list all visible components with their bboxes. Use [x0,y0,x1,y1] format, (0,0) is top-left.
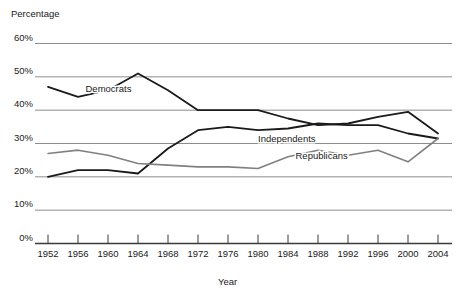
x-tick-label: 1956 [67,248,88,259]
x-tick-label: 2000 [397,248,418,259]
x-axis-title: Year [218,276,237,287]
series-label-republicans: Republicans [296,150,349,161]
y-tick-label: 60% [14,32,34,43]
y-tick-label: 30% [14,132,34,143]
x-tick-label: 1976 [217,248,238,259]
y-tick-label: 20% [14,165,34,176]
x-tick-marks-group [48,235,438,244]
line-chart: Percentage Year 0%10%20%30%40%50%60% 195… [0,0,468,295]
x-tick-label: 1980 [247,248,268,259]
x-tick-label: 1988 [307,248,328,259]
x-tick-labels-group: 1952195619601964196819721976198019841988… [37,248,448,259]
x-tick-label: 2004 [427,248,448,259]
series-label-independents: Independents [258,133,316,144]
gridlines-group [35,44,452,244]
y-tick-label: 10% [14,198,34,209]
x-tick-label: 1960 [97,248,118,259]
series-label-democrats: Democrats [86,83,132,94]
y-tick-labels-group: 0%10%20%30%40%50%60% [14,32,34,243]
series-labels-group: DemocratsDemocratsIndependentsIndependen… [86,83,349,161]
y-tick-label: 40% [14,98,34,109]
x-tick-label: 1952 [37,248,58,259]
chart-plot-area: 0%10%20%30%40%50%60% 1952195619601964196… [0,0,468,295]
x-tick-label: 1964 [127,248,148,259]
x-tick-label: 1968 [157,248,178,259]
x-tick-label: 1984 [277,248,298,259]
y-tick-label: 50% [14,65,34,76]
y-axis-title: Percentage [11,8,60,19]
x-tick-label: 1992 [337,248,358,259]
y-tick-label: 0% [19,232,33,243]
x-tick-label: 1972 [187,248,208,259]
x-tick-label: 1996 [367,248,388,259]
